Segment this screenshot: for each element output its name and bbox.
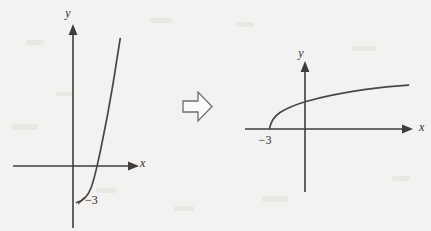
left-y-axis-arrowhead (69, 24, 78, 35)
left-exponential-curve (77, 39, 121, 203)
left-y-axis-label: y (64, 6, 71, 20)
right-x-axis-label: x (418, 120, 425, 134)
left-panel-exponential-graph: x y −3 (13, 6, 146, 228)
paper-texture (12, 18, 410, 211)
left-x-axis-label: x (139, 156, 146, 170)
left-minus-three-leader (79, 198, 85, 204)
figure-root: x y −3 x y (0, 0, 431, 231)
right-minus-three-label: −3 (259, 133, 272, 147)
rightward-block-arrow-icon (183, 92, 212, 121)
left-x-axis-arrowhead (128, 162, 139, 171)
right-y-axis-label: y (297, 46, 304, 60)
math-figure-canvas: x y −3 x y (0, 0, 431, 231)
right-panel-logarithmic-graph: x y −3 (245, 46, 425, 192)
right-y-axis-arrowhead (301, 61, 310, 72)
left-panel-x-axis (13, 162, 139, 171)
right-x-axis-arrowhead (402, 125, 413, 134)
left-minus-three-label: −3 (85, 193, 98, 207)
right-logarithmic-curve (270, 85, 409, 128)
right-panel-y-axis (301, 61, 310, 192)
left-panel-y-axis (69, 24, 78, 228)
